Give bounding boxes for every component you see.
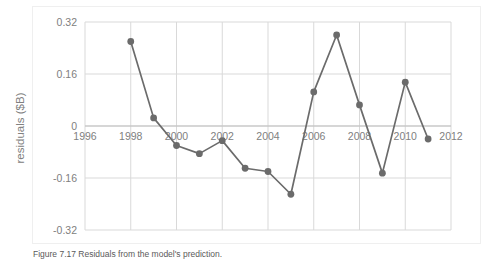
y-axis-title: residuals ($B) <box>14 92 26 163</box>
figure-root: 0.320.160-0.16-0.32 19961998200020022004… <box>0 0 487 260</box>
chart-plot-card <box>32 6 481 244</box>
figure-caption: Figure 7.17 Residuals from the model's p… <box>33 249 483 259</box>
